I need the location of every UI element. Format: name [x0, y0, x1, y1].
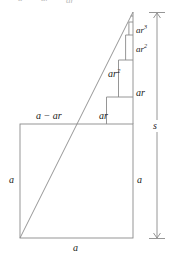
label-s: s	[152, 120, 158, 132]
cropped-label-ar: ar	[41, 0, 49, 3]
label-ar2-inside: ar2	[108, 68, 120, 79]
label-a-right: a	[137, 175, 142, 185]
cropped-top-text-row: a ar ar2	[0, 0, 174, 7]
label-a-left: a	[9, 175, 14, 185]
label-a-bottom: a	[73, 243, 78, 253]
dimension-arrow-bottom	[154, 233, 158, 238]
label-ar-top: ar	[99, 111, 108, 121]
cropped-label-a: a	[18, 0, 23, 3]
diagonal-line	[20, 12, 133, 238]
dimension-arrow-top	[154, 13, 158, 18]
dimension-arrow-top-b	[157, 13, 161, 18]
label-ar-right: ar	[136, 88, 145, 98]
dimension-arrow-bottom-b	[157, 233, 161, 238]
label-ar2-right: ar2	[136, 43, 147, 54]
figure-canvas: a ar ar2 ar3 ar2 ar2 ar a − ar ar a a a …	[0, 0, 174, 261]
label-a-minus-ar: a − ar	[36, 111, 62, 121]
label-ar3: ar3	[136, 24, 147, 35]
cropped-label-ar2: ar2	[66, 0, 77, 5]
square-shape	[20, 124, 133, 238]
geometry-diagram	[0, 0, 174, 261]
